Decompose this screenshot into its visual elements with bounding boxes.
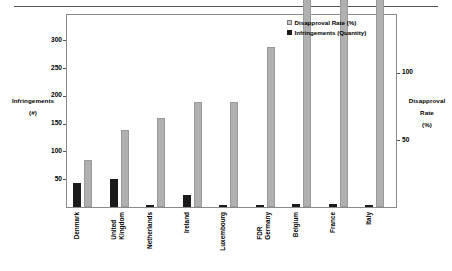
legend-item-infringements: Infringements (Quantity) bbox=[287, 28, 366, 37]
bar-group bbox=[325, 15, 359, 207]
bar-group bbox=[215, 15, 249, 207]
x-tick-label-text: Netherlands bbox=[146, 212, 154, 249]
x-tick-label-text: Italy bbox=[365, 212, 373, 225]
right-axis-title-line1: Disapproval bbox=[404, 95, 450, 107]
left-tick-mark-300 bbox=[63, 40, 66, 41]
bar-infringements bbox=[292, 204, 300, 207]
right-tick-mark-50 bbox=[397, 140, 400, 141]
x-tick-label-text: Denmark bbox=[73, 212, 81, 239]
x-tick-label-text: Ireland bbox=[183, 212, 191, 233]
header-divider bbox=[14, 6, 438, 7]
bar-group bbox=[69, 15, 103, 207]
legend-item-disapproval-rate: Disapproval Rate (%) bbox=[287, 18, 366, 27]
left-tick-label-250: 250 bbox=[40, 65, 62, 72]
x-tick-label: Italy bbox=[365, 212, 425, 270]
x-tick-label-text: United Kingdom bbox=[110, 212, 126, 240]
bar-group bbox=[288, 15, 322, 207]
x-tick-label-text: France bbox=[329, 212, 337, 233]
bar-infringements bbox=[219, 205, 227, 207]
right-tick-label-50: 50 bbox=[402, 137, 426, 144]
left-tick-label-150: 150 bbox=[40, 120, 62, 127]
bar-infringements bbox=[183, 195, 191, 207]
bar-disapproval-rate bbox=[376, 0, 384, 207]
bar-infringements bbox=[256, 205, 264, 207]
legend-label-disapproval-rate: Disapproval Rate (%) bbox=[295, 19, 357, 26]
bar-group bbox=[142, 15, 176, 207]
bar-disapproval-rate bbox=[267, 47, 275, 207]
bar-series-container bbox=[67, 15, 396, 207]
bar-group bbox=[361, 15, 395, 207]
right-axis-title-unit: (%) bbox=[404, 119, 450, 131]
bar-disapproval-rate bbox=[230, 102, 238, 207]
x-tick-label-text: Belgium bbox=[292, 212, 300, 237]
bar-infringements bbox=[110, 179, 118, 207]
x-tick-label-text: FDR Germany bbox=[256, 212, 272, 240]
left-tick-label-300: 300 bbox=[40, 37, 62, 44]
chart-figure: Infringements (#) Disapproval Rate (%) 3… bbox=[0, 0, 452, 271]
chart-legend: Disapproval Rate (%) Infringements (Quan… bbox=[287, 18, 366, 38]
right-axis-title-line2: Rate bbox=[404, 107, 450, 119]
right-tick-label-100: 100 bbox=[402, 69, 426, 76]
bar-infringements bbox=[146, 205, 154, 207]
right-axis-title: Disapproval Rate (%) bbox=[404, 95, 450, 130]
left-tick-mark-150 bbox=[63, 124, 66, 125]
left-tick-label-50: 50 bbox=[40, 176, 62, 183]
bar-infringements bbox=[365, 205, 373, 207]
bar-group bbox=[252, 15, 286, 207]
x-tick-label-text: Luxembourg bbox=[219, 212, 227, 251]
left-tick-label-200: 200 bbox=[40, 92, 62, 99]
bar-group bbox=[179, 15, 213, 207]
bar-infringements bbox=[73, 183, 81, 207]
left-tick-label-100: 100 bbox=[40, 148, 62, 155]
left-tick-mark-250 bbox=[63, 68, 66, 69]
left-tick-mark-100 bbox=[63, 151, 66, 152]
left-tick-mark-200 bbox=[63, 96, 66, 97]
bar-disapproval-rate bbox=[121, 130, 129, 207]
bar-disapproval-rate bbox=[84, 160, 92, 207]
legend-swatch-dark-icon bbox=[287, 30, 292, 35]
legend-swatch-light-icon bbox=[287, 20, 292, 25]
bar-group bbox=[106, 15, 140, 207]
bar-disapproval-rate bbox=[157, 118, 165, 207]
legend-label-infringements: Infringements (Quantity) bbox=[295, 29, 367, 36]
right-tick-mark-100 bbox=[397, 73, 400, 74]
bar-disapproval-rate bbox=[194, 102, 202, 207]
left-tick-mark-50 bbox=[63, 179, 66, 180]
left-axis-title-unit: (#) bbox=[2, 107, 64, 119]
bar-infringements bbox=[329, 204, 337, 207]
